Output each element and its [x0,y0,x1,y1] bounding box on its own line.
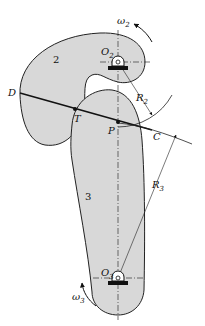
body-2-label: 2 [53,54,59,65]
body-3-shape [71,90,145,315]
point-p-dot [116,120,120,124]
r2-label: R2 [135,92,149,106]
body-3-label: 3 [85,191,91,202]
cam-mechanism-diagram: 2 3 O2 O3 D T P C R2 R3 ω2 ω3 [0,0,205,326]
omega2-label: ω2 [117,15,130,29]
omega3-label: ω3 [72,291,85,305]
omega2-arrow-icon [134,24,152,42]
point-c-label: C [153,131,161,142]
point-t-dot [73,107,77,111]
point-p-label: P [107,125,115,136]
point-d-label: D [7,87,16,98]
